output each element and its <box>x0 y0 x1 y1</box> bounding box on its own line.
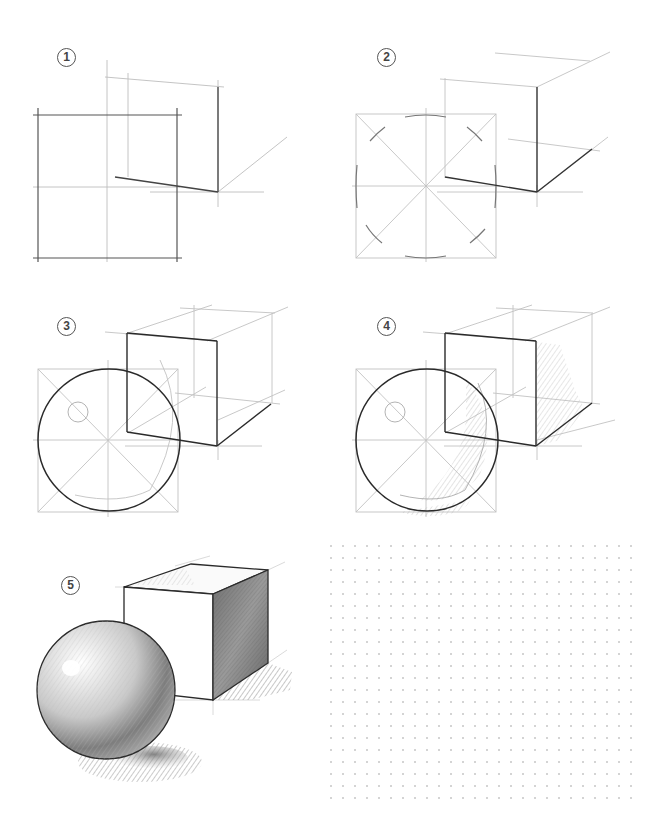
step-5-drawing <box>37 556 292 782</box>
step-5-sphere-highlight <box>62 660 80 676</box>
step-4-drawing <box>352 305 615 517</box>
step-1-drawing <box>33 60 287 262</box>
step-2-guides <box>352 52 610 262</box>
step-4-highlight-circle <box>385 402 405 422</box>
step-2-drawing <box>352 52 610 262</box>
practice-dot-grid <box>325 540 639 808</box>
step-3-highlight-circle <box>68 402 88 422</box>
step-4-cube-side-hatching <box>537 342 585 446</box>
step-1-guides <box>33 60 287 262</box>
step-3-drawing <box>33 305 288 517</box>
step-3-cube-outline <box>127 333 271 446</box>
step-1-square <box>33 108 182 262</box>
step-3-guides <box>33 305 288 517</box>
